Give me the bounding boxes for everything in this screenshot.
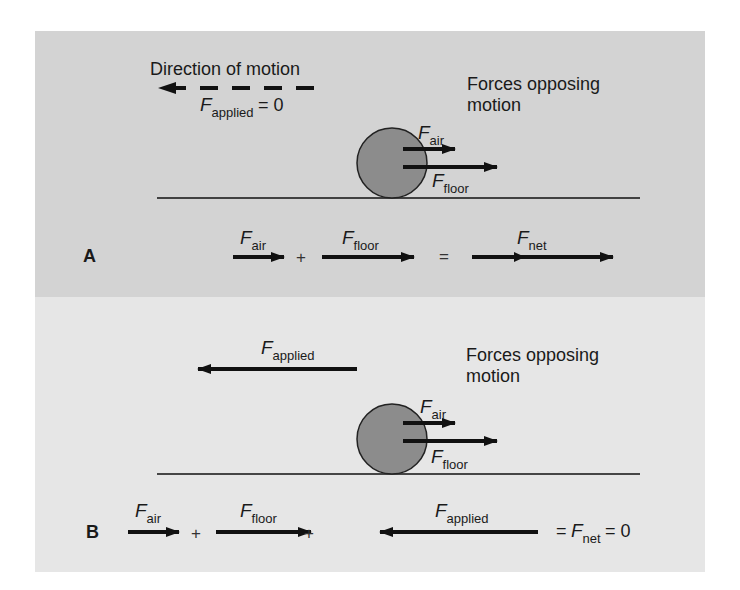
f-applied-zero-label: Fapplied = 0	[200, 94, 284, 116]
ball-a	[357, 128, 427, 198]
forces-opposing-label-a2: motion	[467, 95, 521, 116]
diagram-graphics	[0, 0, 740, 590]
ball-f-air-label-a: Fair	[418, 122, 444, 144]
f-symbol: F	[418, 122, 430, 143]
f-symbol: F	[517, 227, 529, 248]
plus-sign-b2: +	[304, 524, 314, 544]
eq-f-air-label-a: Fair	[240, 227, 266, 249]
f-subscript: air	[432, 407, 446, 422]
eq-f-applied-label-b: Fapplied	[435, 500, 489, 522]
f-subscript: applied	[212, 105, 254, 120]
f-subscript: floor	[354, 238, 379, 253]
f-subscript: net	[529, 238, 547, 253]
f-applied-label-b: Fapplied	[261, 337, 315, 359]
f-subscript: floor	[443, 457, 468, 472]
plus-sign-a: +	[296, 248, 306, 268]
f-symbol: F	[240, 500, 252, 521]
forces-opposing-label-a1: Forces opposing	[467, 74, 600, 95]
equals-sign-a: =	[439, 247, 449, 267]
f-symbol: F	[135, 500, 147, 521]
ball-f-floor-label-a: Ffloor	[432, 170, 469, 192]
f-subscript: floor	[444, 181, 469, 196]
eq-f-net-label-a: Fnet	[517, 227, 547, 249]
forces-opposing-label-b2: motion	[466, 366, 520, 387]
ball-f-air-label-b: Fair	[420, 396, 446, 418]
f-subscript: floor	[252, 511, 277, 526]
equals-sign: =	[556, 521, 567, 541]
equals-zero: = 0	[258, 95, 284, 115]
panel-label-a: A	[83, 246, 96, 267]
f-subscript: air	[147, 511, 161, 526]
f-symbol: F	[435, 500, 447, 521]
eq-f-floor-label-b: Ffloor	[240, 500, 277, 522]
f-subscript: net	[583, 531, 601, 546]
f-subscript: air	[430, 133, 444, 148]
direction-arrow-dashed	[158, 82, 314, 94]
f-symbol: F	[342, 227, 354, 248]
f-net-zero-expression: = Fnet = 0	[556, 520, 631, 542]
plus-sign-b1: +	[191, 524, 201, 544]
direction-of-motion-label: Direction of motion	[150, 59, 300, 80]
equals-zero: = 0	[605, 521, 631, 541]
ball-f-floor-label-b: Ffloor	[431, 446, 468, 468]
eq-f-net-arrow-a	[472, 252, 613, 262]
f-subscript: applied	[447, 511, 489, 526]
f-subscript: air	[252, 238, 266, 253]
f-symbol: F	[261, 337, 273, 358]
f-subscript: applied	[273, 348, 315, 363]
f-symbol: F	[240, 227, 252, 248]
eq-f-floor-label-a: Ffloor	[342, 227, 379, 249]
forces-opposing-label-b1: Forces opposing	[466, 345, 599, 366]
f-symbol: F	[200, 94, 212, 115]
f-symbol: F	[432, 170, 444, 191]
f-symbol: F	[431, 446, 443, 467]
f-symbol: F	[571, 520, 583, 541]
panel-label-b: B	[86, 522, 99, 543]
eq-f-air-label-b: Fair	[135, 500, 161, 522]
f-symbol: F	[420, 396, 432, 417]
